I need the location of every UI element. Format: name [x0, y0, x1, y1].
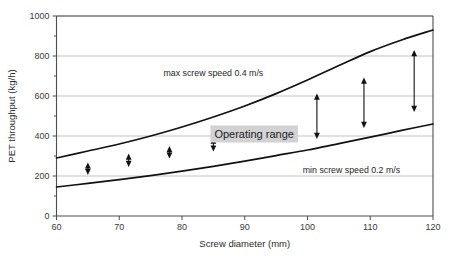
annotation-operating-range: Operating range [214, 128, 294, 140]
chart-svg: 02004006008001000 60708090100110120 Scre… [0, 0, 457, 258]
x-tick-label-70: 70 [114, 222, 124, 232]
y-tick-label-1000: 1000 [29, 11, 49, 21]
annotation-min-speed: min screw speed 0.2 m/s [303, 165, 401, 175]
y-tick-label-200: 200 [34, 171, 49, 181]
x-tick-label-120: 120 [425, 222, 440, 232]
x-tick-label-90: 90 [240, 222, 250, 232]
x-tick-label-100: 100 [300, 222, 315, 232]
annotation-max-speed: max screw speed 0.4 m/s [164, 68, 264, 78]
y-tick-label-600: 600 [34, 91, 49, 101]
y-tick-label-400: 400 [34, 131, 49, 141]
y-tick-label-0: 0 [44, 211, 49, 221]
y-axis-title: PET throughput (kg/h) [6, 69, 17, 162]
y-tick-label-800: 800 [34, 51, 49, 61]
x-tick-label-60: 60 [51, 222, 61, 232]
x-tick-label-80: 80 [177, 222, 187, 232]
chart-figure: 02004006008001000 60708090100110120 Scre… [0, 0, 457, 258]
x-axis-title: Screw diameter (mm) [199, 238, 290, 249]
x-tick-label-110: 110 [363, 222, 377, 232]
